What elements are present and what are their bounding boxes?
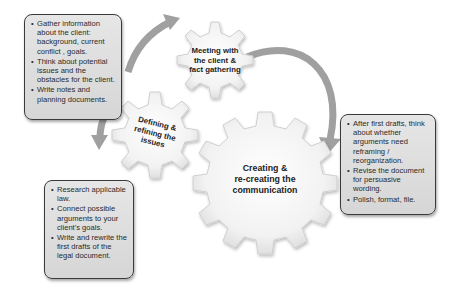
gear-label-line: the client & [178, 56, 252, 66]
gear-label-line: fact gathering [178, 65, 252, 75]
bullet-item: Connect possible arguments to your clien… [51, 204, 128, 232]
bullet-list: Research applicable law. Connect possibl… [51, 185, 128, 261]
bullet-item: Revise the document for persuasive wordi… [347, 166, 430, 194]
box-defining-notes: Research applicable law. Connect possibl… [44, 180, 134, 279]
bullet-item: After first drafts, think about whether … [347, 119, 430, 165]
bullet-item: Polish, format, file. [347, 195, 430, 204]
gear-label-creating: Creating & re-creating the communication [215, 163, 315, 196]
gear-label-line: Meeting with [178, 46, 252, 56]
bullet-list: Gather information about the client: bac… [31, 19, 116, 104]
bullet-item: Research applicable law. [51, 185, 128, 203]
box-meeting-notes: Gather information about the client: bac… [24, 14, 122, 120]
gear-label-meeting: Meeting with the client & fact gathering [178, 46, 252, 75]
gear-label-line: Creating & [215, 163, 315, 174]
arrow-to-meeting-icon [128, 14, 180, 72]
gear-label-line: communication [215, 185, 315, 196]
bullet-list: After first drafts, think about whether … [347, 119, 430, 204]
gear-label-line: re-creating the [215, 174, 315, 185]
bullet-item: Write notes and planning documents. [31, 85, 116, 103]
bullet-item: Write and rewrite the first drafts of th… [51, 233, 128, 261]
legal-writing-process-diagram: Meeting with the client & fact gathering… [0, 0, 455, 285]
bullet-item: Think about potential issues and the obs… [31, 57, 116, 85]
box-creating-notes: After first drafts, think about whether … [340, 114, 436, 215]
bullet-item: Gather information about the client: bac… [31, 19, 116, 56]
